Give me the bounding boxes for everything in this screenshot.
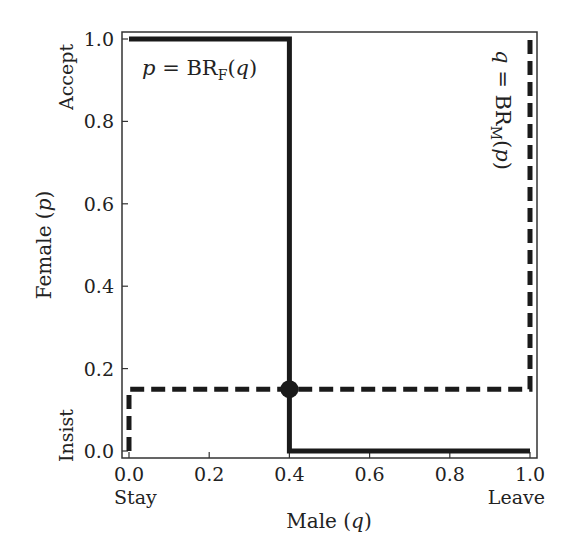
annotation-br-male: q = BRM(p)	[488, 50, 515, 170]
x-tick-label: 0.4	[274, 463, 304, 485]
annotation-br-female: p = BRF(q)	[142, 56, 257, 83]
equilibrium-point-marker	[280, 380, 298, 398]
x-tick-label: 1.0	[515, 463, 545, 485]
y-tick-label: 0.0	[84, 440, 114, 462]
x-tick-label: 0.8	[435, 463, 465, 485]
axes-frame	[122, 32, 537, 458]
y-max-label-accept: Accept	[55, 44, 77, 111]
series-layer	[129, 39, 530, 451]
x-max-label-leave: Leave	[488, 486, 545, 508]
y-tick-label: 0.2	[84, 358, 114, 380]
series-br-male-dashed	[129, 39, 530, 451]
x-axis-ticks: 0.00.20.40.60.81.0	[114, 452, 545, 485]
y-tick-label: 1.0	[84, 28, 114, 50]
x-tick-label: 0.6	[354, 463, 384, 485]
x-tick-label: 0.0	[114, 463, 144, 485]
y-min-label-insist: Insist	[55, 409, 77, 462]
y-tick-label: 0.8	[84, 110, 114, 132]
y-tick-label: 0.4	[84, 275, 114, 297]
x-min-label-stay: Stay	[114, 486, 157, 508]
y-axis-label: Female (p)	[32, 191, 56, 300]
best-response-chart: 0.00.20.40.60.81.0 0.00.20.40.60.81.0 p …	[0, 0, 571, 554]
x-tick-label: 0.2	[194, 463, 224, 485]
x-axis-label: Male (q)	[286, 509, 371, 533]
y-tick-label: 0.6	[84, 193, 114, 215]
